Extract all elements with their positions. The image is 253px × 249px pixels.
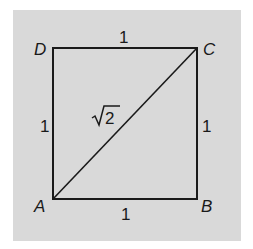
diagonal-label: 2 bbox=[92, 106, 120, 128]
vertex-label-b: B bbox=[201, 197, 212, 216]
diagonal-ac bbox=[53, 48, 197, 199]
vertex-label-d: D bbox=[34, 40, 46, 59]
vertex-label-c: C bbox=[203, 40, 216, 59]
side-label-left: 1 bbox=[40, 117, 49, 136]
square-diagram: D C A B 1 1 1 1 2 bbox=[0, 0, 253, 249]
vertex-label-a: A bbox=[33, 197, 45, 216]
side-label-top: 1 bbox=[119, 28, 128, 47]
diagonal-label-value: 2 bbox=[105, 109, 114, 128]
side-label-bottom: 1 bbox=[121, 205, 130, 224]
side-label-right: 1 bbox=[202, 117, 211, 136]
